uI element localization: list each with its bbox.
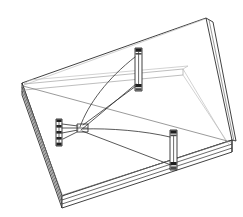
- post-left-band-1: [56, 119, 61, 122]
- post-right-band-upper: [170, 130, 176, 133]
- post-right: [170, 130, 177, 170]
- post-left: [56, 119, 62, 146]
- line-drawing-svg: [0, 0, 243, 217]
- post-top-band-lower: [135, 84, 141, 87]
- figure-container: Isometric wireframe line drawing of a re…: [0, 0, 243, 217]
- post-right-band-lower: [170, 162, 176, 165]
- post-right-band-upper-2: [170, 135, 176, 137]
- post-top-band-upper: [135, 48, 141, 51]
- post-left-band-5: [56, 143, 61, 146]
- base-plate-top-face: [22, 18, 232, 196]
- post-top: [135, 48, 142, 91]
- post-top-band-lower-2: [135, 88, 141, 90]
- post-right-band-lower-2: [170, 166, 176, 169]
